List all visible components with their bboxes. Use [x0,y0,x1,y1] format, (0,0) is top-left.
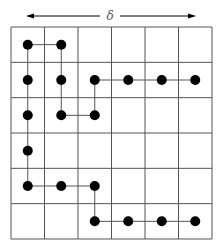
node-dot [23,146,33,156]
node-dot [23,110,33,120]
node-dot [23,40,33,50]
node-dot [157,75,167,85]
node-dot [123,216,133,226]
node-dot [56,110,66,120]
arrow-right-icon [188,14,196,19]
delta-label: δ [106,9,113,23]
node-dot [90,181,100,191]
node-dot [157,216,167,226]
node-dot [90,110,100,120]
node-dot [123,75,133,85]
grid [11,27,212,239]
node-dot [56,181,66,191]
node-dot [56,75,66,85]
grid-path-diagram: δ [0,0,221,248]
width-arrow: δ [26,9,196,23]
node-dot [90,216,100,226]
node-dot [190,216,200,226]
node-dot [23,75,33,85]
node-dot [190,75,200,85]
node-dot [90,75,100,85]
arrow-left-icon [26,14,34,19]
node-dot [23,181,33,191]
node-dot [56,40,66,50]
